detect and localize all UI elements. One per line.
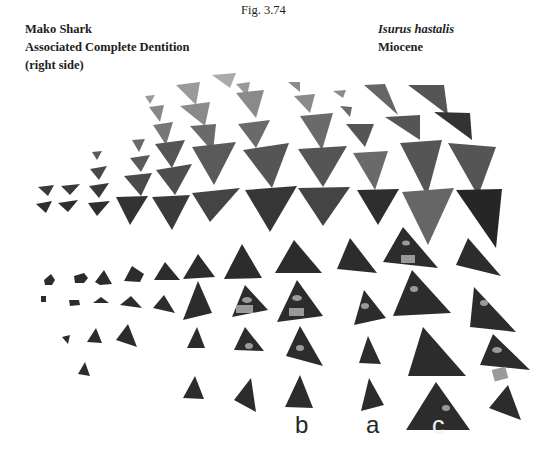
teeth-photograph xyxy=(0,0,552,464)
label-a: a xyxy=(366,413,379,437)
label-b: b xyxy=(295,413,308,437)
lower-teeth xyxy=(41,227,530,430)
upper-teeth xyxy=(36,73,502,248)
label-c: c xyxy=(432,413,445,437)
